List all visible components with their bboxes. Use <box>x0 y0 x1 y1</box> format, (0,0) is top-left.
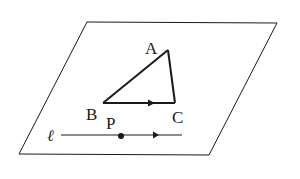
point-p <box>118 133 124 139</box>
arrow-bc-icon <box>148 100 155 107</box>
label-c: C <box>172 108 183 127</box>
label-b: B <box>86 105 97 124</box>
triangle-abc <box>103 50 175 107</box>
label-l: ℓ <box>47 126 54 145</box>
label-a: A <box>145 39 158 58</box>
edge-ac <box>168 50 175 103</box>
label-p: P <box>106 114 115 133</box>
arrow-l-icon <box>153 132 159 139</box>
geometry-diagram: A B C P ℓ <box>0 0 300 179</box>
edge-ab <box>103 50 168 103</box>
